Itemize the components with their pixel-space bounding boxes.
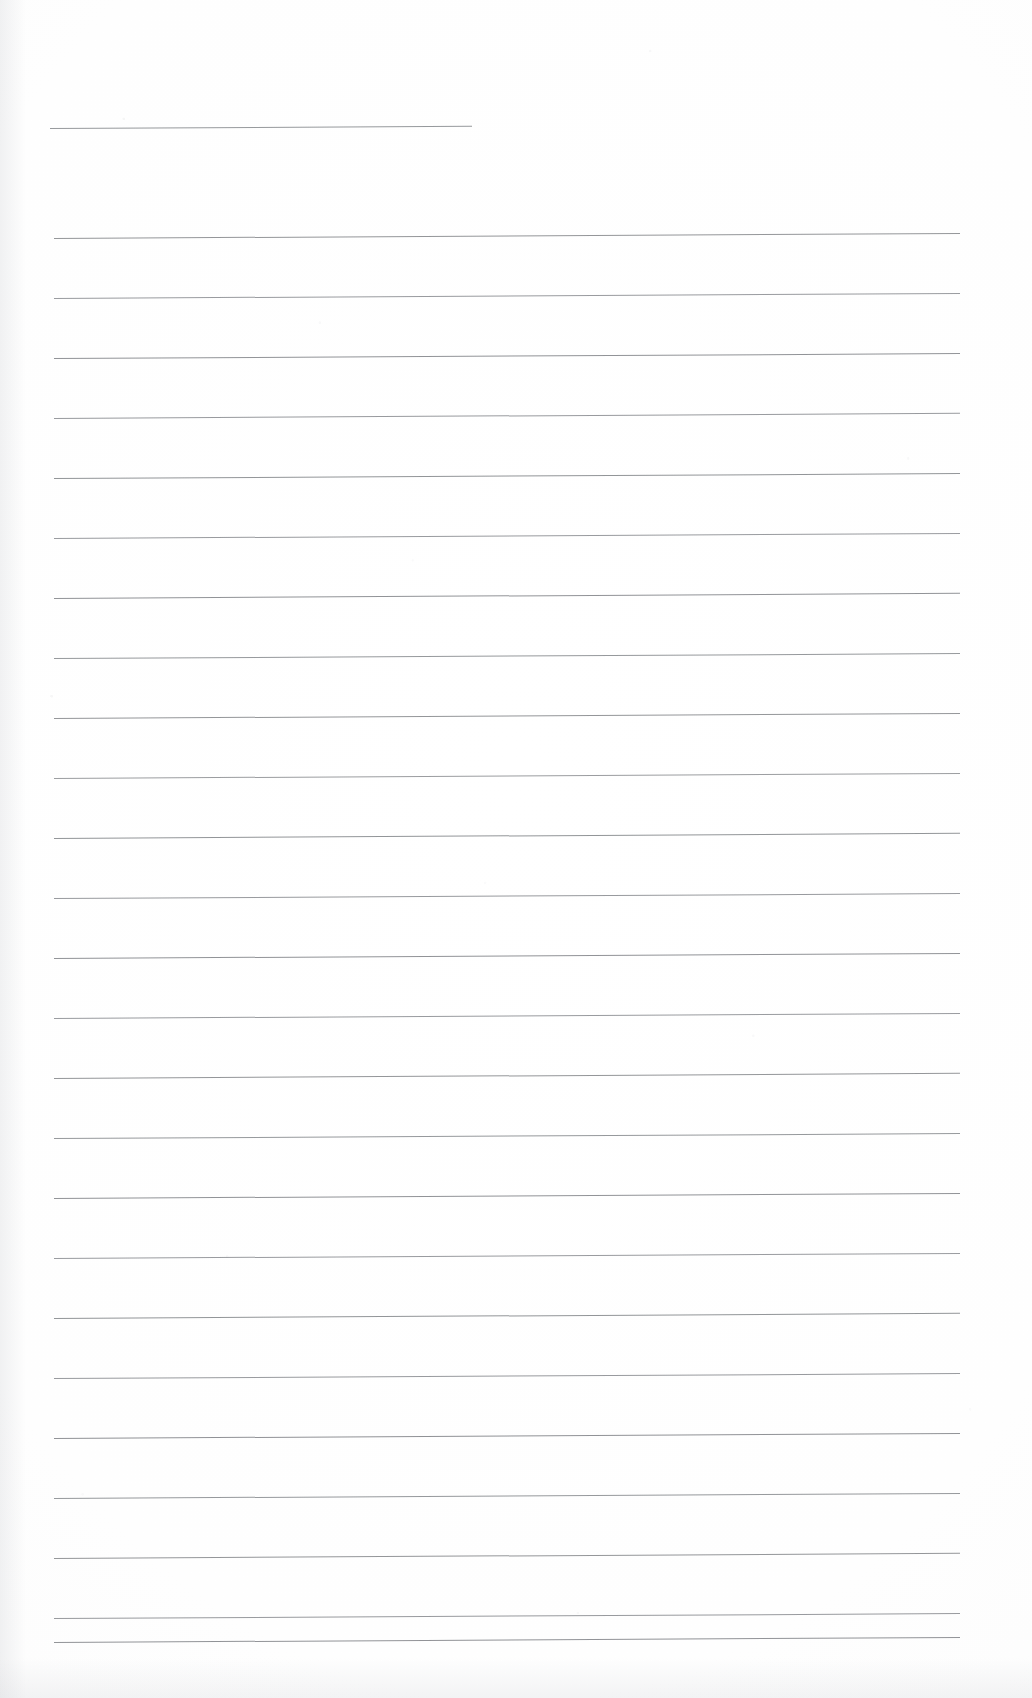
ruled-line [54,293,960,299]
ruled-line [54,473,960,479]
ruled-line [54,1073,960,1079]
ruled-line [54,413,960,419]
ruled-line [54,1637,960,1643]
ruled-line [54,533,960,539]
ruled-line [54,713,960,719]
ruled-line [54,773,960,779]
ruled-line [54,653,960,659]
ruled-line [54,953,960,959]
ruled-line [54,593,960,599]
ruled-line [50,126,472,129]
ruled-line [54,1493,960,1499]
ruled-line [54,1133,960,1139]
ruled-line [54,1613,960,1619]
ruled-lines-layer [0,0,1032,1698]
scanned-page [0,0,1032,1698]
ruled-line [54,1013,960,1019]
ruled-line [54,233,960,239]
ruled-line [54,1253,960,1259]
ruled-line [54,353,960,359]
ruled-line [54,1313,960,1319]
ruled-line [54,833,960,839]
ruled-line [54,1433,960,1439]
ruled-line [54,1193,960,1199]
ruled-line [54,1373,960,1379]
ruled-line [54,1553,960,1559]
ruled-line [54,893,960,899]
